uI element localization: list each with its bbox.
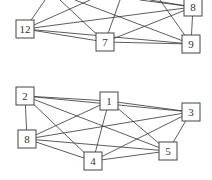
bottom-graph-node-8: 8 (18, 130, 36, 148)
edge-8-5 (27, 139, 168, 151)
top-graph-node-7: 7 (96, 33, 114, 51)
node-label: 12 (20, 23, 31, 35)
node-label: 4 (90, 155, 96, 167)
bottom-graph-node-1: 1 (100, 92, 118, 110)
node-label: 8 (24, 133, 30, 145)
node-label: 1 (106, 95, 112, 107)
bottom-graph-node-3: 3 (182, 103, 200, 121)
edge-8-4 (27, 139, 93, 161)
edge-1-3 (109, 101, 191, 112)
node-label: 8 (190, 1, 196, 13)
top-graph-node-9: 9 (182, 35, 200, 53)
node-label: 9 (188, 38, 194, 50)
node-label: 2 (22, 90, 28, 102)
edge-7-8 (105, 7, 193, 42)
node-label: 5 (165, 145, 171, 157)
bottom-graph-node-2: 2 (16, 87, 34, 105)
edge-2-4 (25, 96, 93, 161)
edge-8-3 (27, 112, 191, 139)
edge-4-5 (93, 151, 168, 161)
bottom-graph-node-5: 5 (159, 142, 177, 160)
bottom-graph-node-4: 4 (84, 152, 102, 170)
edge-2-5 (25, 96, 168, 151)
node-label: 7 (102, 36, 108, 48)
top-graph-node-12: 12 (16, 20, 34, 38)
top-graph-node-8: 8 (184, 0, 202, 16)
node-label: 3 (188, 106, 194, 118)
edge-1-8 (27, 101, 109, 139)
graph-diagram: 12789213845 (0, 0, 212, 180)
